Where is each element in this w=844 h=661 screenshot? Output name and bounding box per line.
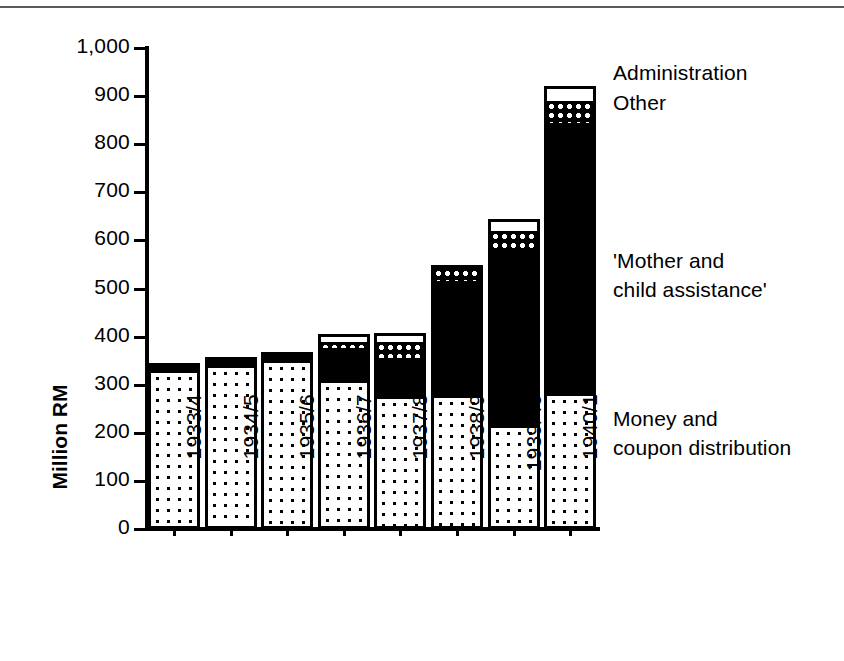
x-axis-tick-1938-9 — [456, 527, 459, 536]
x-axis-tick-1939-40 — [513, 527, 516, 536]
y-axis-tick-900 — [134, 95, 147, 98]
bar-segment-divider — [264, 355, 310, 357]
bar-segment-divider — [151, 366, 197, 368]
bar-segment-white — [321, 337, 367, 342]
bar-segment-white — [491, 222, 537, 231]
y-axis-tick-600 — [134, 239, 147, 242]
y-axis-tick-500 — [134, 288, 147, 291]
x-axis-tick-1937-8 — [399, 527, 402, 536]
y-axis-tick-label-200: 200 — [38, 419, 130, 443]
bar-segment-checkered — [377, 342, 423, 359]
y-axis-tick-label-700: 700 — [38, 178, 130, 202]
bar-segment-checkered — [491, 231, 537, 249]
y-axis-tick-label-1000: 1,000 — [38, 34, 130, 58]
bar-segment-checkered — [434, 268, 480, 281]
x-axis-label-1936-7: 1936/7 — [352, 394, 376, 534]
annotation-administration: Administration — [613, 58, 747, 87]
bar-segment-white — [547, 89, 593, 100]
annotation-mother-and-child: 'Mother and child assistance' — [613, 246, 767, 304]
bar-segment-white — [377, 336, 423, 341]
bar-segment-solid-black — [547, 123, 593, 396]
y-axis-tick-label-0: 0 — [38, 515, 130, 539]
x-axis-label-1934-5: 1934/5 — [239, 394, 263, 534]
y-axis-tick-label-900: 900 — [38, 82, 130, 106]
y-axis-tick-label-300: 300 — [38, 371, 130, 395]
y-axis-tick-1000 — [134, 47, 147, 50]
x-axis-label-1933-4: 1933/4 — [182, 394, 206, 534]
y-axis-tick-200 — [134, 432, 147, 435]
bar-segment-white — [434, 265, 480, 268]
bar-segment-solid-black — [434, 281, 480, 396]
bar-segment-solid-black — [321, 348, 367, 382]
y-axis-tick-label-400: 400 — [38, 323, 130, 347]
y-axis-tick-800 — [134, 143, 147, 146]
y-axis-tick-700 — [134, 191, 147, 194]
y-axis-tick-label-600: 600 — [38, 226, 130, 250]
y-axis-tick-400 — [134, 336, 147, 339]
y-axis-tick-300 — [134, 384, 147, 387]
x-axis-label-1935-6: 1935/6 — [295, 394, 319, 534]
x-axis-tick-1936-7 — [343, 527, 346, 536]
bar-segment-divider — [434, 268, 480, 270]
bar-segment-solid-black — [377, 358, 423, 398]
stacked-bar-chart: Million RM 01002003004005006007008009001… — [0, 0, 844, 661]
chart-page: Million RM 01002003004005006007008009001… — [0, 0, 844, 661]
bar-segment-checkered — [321, 342, 367, 349]
annotation-money-and-coupon: Money and coupon distribution — [613, 404, 791, 462]
y-axis-tick-label-100: 100 — [38, 467, 130, 491]
x-axis-label-1939-40: 1939/40 — [522, 394, 546, 534]
y-axis-tick-label-500: 500 — [38, 275, 130, 299]
x-axis-tick-1933-4 — [173, 527, 176, 536]
y-axis-tick-0 — [134, 528, 147, 531]
x-axis-tick-1934-5 — [230, 527, 233, 536]
x-axis-tick-1935-6 — [286, 527, 289, 536]
bar-segment-divider — [208, 360, 254, 362]
annotation-other: Other — [613, 88, 666, 117]
x-axis-tick-1940-1 — [569, 527, 572, 536]
bar-segment-checkered — [547, 101, 593, 123]
x-axis-label-1940-1: 1940/1 — [578, 394, 602, 534]
y-axis-tick-100 — [134, 480, 147, 483]
y-axis-tick-label-800: 800 — [38, 130, 130, 154]
x-axis-label-1938-9: 1938/9 — [465, 394, 489, 534]
x-axis-label-1937-8: 1937/8 — [408, 394, 432, 534]
